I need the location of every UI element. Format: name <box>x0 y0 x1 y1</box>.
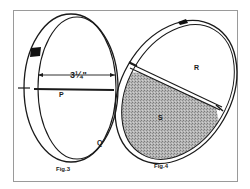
label-r: R <box>194 64 199 71</box>
ring-inner-edge <box>38 17 116 159</box>
caption-fig-3: Fig.3 <box>56 166 71 172</box>
ring-band-mark <box>30 47 41 57</box>
label-s: S <box>158 114 163 121</box>
label-p: P <box>59 91 64 98</box>
figure-4: R S Fig.4 <box>90 0 250 185</box>
figure-3: 3¼" P Q Fig.3 <box>18 14 118 172</box>
rod-p-main <box>34 89 114 90</box>
caption-fig-4: Fig.4 <box>154 163 169 169</box>
dimension-label: 3¼" <box>70 70 87 80</box>
disc-band-mark <box>178 19 188 25</box>
label-q: Q <box>97 139 103 147</box>
diagram-frame: 3¼" P Q Fig.3 R S Fig.4 <box>0 0 250 189</box>
